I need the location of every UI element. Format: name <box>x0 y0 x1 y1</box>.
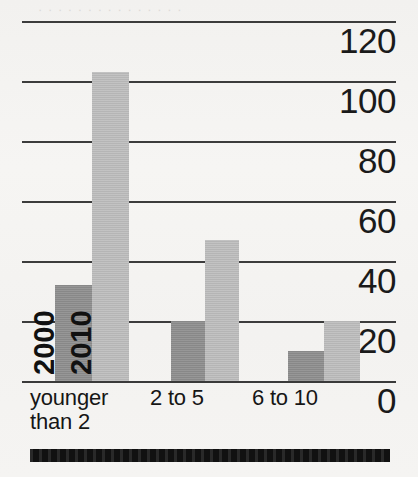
bottom-rule <box>30 449 390 462</box>
bar-2010-2 <box>205 240 239 381</box>
series-label-2010: 2010 <box>67 310 96 375</box>
x-axis-label-2-to-5: 2 to 5 <box>150 386 240 410</box>
bar-2010-1 <box>92 72 129 381</box>
bar-2000-3 <box>288 351 324 381</box>
x-axis-label-6-to-10: 6 to 10 <box>252 386 362 410</box>
plot-area: 120 100 80 60 40 20 0 20002010 <box>22 0 396 400</box>
series-label-2000: 2000 <box>30 310 59 375</box>
bar-chart: · · · · · · · · · · · · · · · 120 100 80… <box>0 0 418 477</box>
x-axis-label-younger-than-2: younger than 2 <box>30 386 150 434</box>
bar-2000-2 <box>171 321 205 381</box>
bar-2010-3 <box>324 321 360 381</box>
bars-layer: 20002010 <box>22 0 396 381</box>
